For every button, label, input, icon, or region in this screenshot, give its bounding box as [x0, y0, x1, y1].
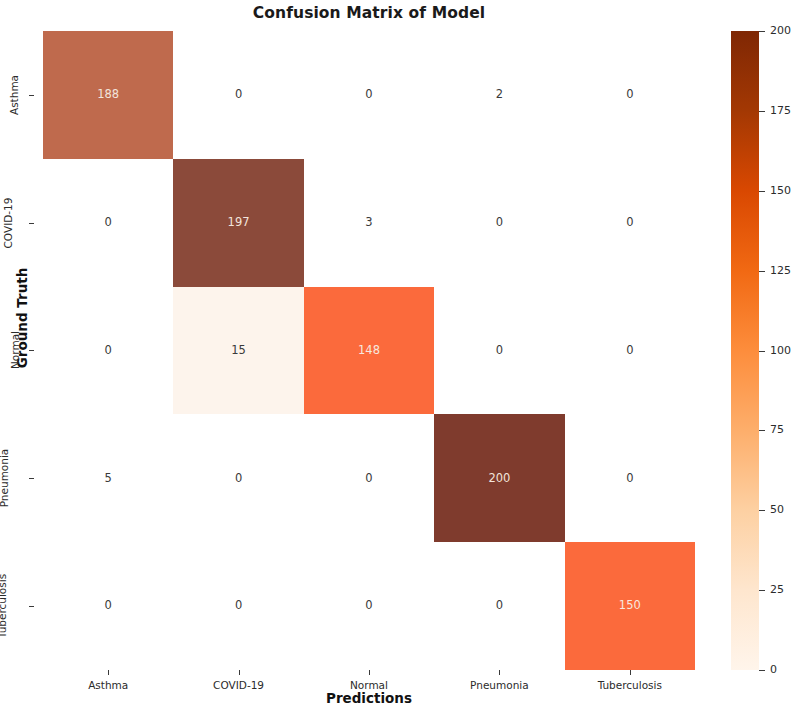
heatmap-cell-value: 0 [496, 217, 503, 229]
y-tick-label: Pneumonia [0, 449, 11, 508]
colorbar-tick-mark [759, 191, 765, 192]
heatmap-cell: 0 [565, 414, 695, 542]
y-tick-label: Normal [9, 331, 21, 369]
colorbar-tick-mark [759, 510, 765, 511]
heatmap-cell-value: 200 [488, 473, 510, 485]
colorbar-tick-mark [759, 271, 765, 272]
heatmap-cell-value: 0 [365, 89, 372, 101]
page-title: Confusion Matrix of Model [43, 4, 695, 22]
x-tick-mark [630, 670, 631, 675]
heatmap-cell: 150 [565, 542, 695, 670]
y-tick-normal: Normal [0, 287, 34, 415]
heatmap-cell-value: 0 [235, 600, 242, 612]
y-tick-mark [29, 606, 34, 607]
heatmap-cell: 148 [304, 287, 434, 415]
heatmap-cell-value: 197 [228, 217, 250, 229]
heatmap-cell-value: 0 [235, 473, 242, 485]
colorbar-tick-mark [759, 670, 765, 671]
heatmap-cell-value: 0 [235, 89, 242, 101]
heatmap-cell: 0 [304, 31, 434, 159]
heatmap-cell-value: 0 [365, 600, 372, 612]
heatmap-cell: 0 [43, 287, 173, 415]
heatmap-cell: 2 [434, 31, 564, 159]
y-tick-pneumonia: Pneumonia [0, 414, 34, 542]
heatmap-cell: 5 [43, 414, 173, 542]
y-tick-label: Asthma [8, 75, 20, 115]
heatmap-cell: 0 [43, 542, 173, 670]
y-axis-ticklabels: AsthmaCOVID-19NormalPneumoniaTuberculosi… [0, 31, 43, 670]
colorbar-tick-label: 25 [770, 583, 784, 596]
colorbar-tick-label: 150 [770, 184, 791, 197]
heatmap-cell-value: 188 [97, 89, 119, 101]
colorbar-tick-mark [759, 31, 765, 32]
heatmap-cell: 197 [173, 159, 303, 287]
colorbar-tick-label: 50 [770, 503, 784, 516]
heatmap-cell-value: 0 [105, 345, 112, 357]
heatmap-cell-value: 0 [105, 600, 112, 612]
x-tick-tuberculosis: Tuberculosis [565, 670, 695, 691]
heatmap-cell: 15 [173, 287, 303, 415]
y-tick-mark [29, 478, 34, 479]
heatmap-cell-value: 2 [496, 89, 503, 101]
x-tick-pneumonia: Pneumonia [434, 670, 564, 691]
y-tick-tuberculosis: Tuberculosis [0, 542, 34, 670]
heatmap-cell: 0 [565, 31, 695, 159]
colorbar-tick-label: 75 [770, 423, 784, 436]
heatmap-cell: 0 [434, 159, 564, 287]
x-tick-mark [108, 670, 109, 675]
x-tick-mark [369, 670, 370, 675]
heatmap-grid: 188002001973000151480050020000000150 [43, 31, 695, 670]
colorbar-tick-label: 100 [770, 344, 791, 357]
colorbar-tick-label: 0 [770, 663, 777, 676]
confusion-matrix-figure: Confusion Matrix of Model Ground Truth A… [0, 0, 798, 713]
y-tick-mark [29, 350, 34, 351]
colorbar-tick-label: 175 [770, 104, 791, 117]
heatmap-cell: 0 [173, 31, 303, 159]
heatmap-cell: 3 [304, 159, 434, 287]
heatmap-cell: 0 [434, 542, 564, 670]
heatmap-cell: 0 [434, 287, 564, 415]
heatmap-cell-value: 0 [496, 600, 503, 612]
heatmap-cell-value: 0 [626, 89, 633, 101]
heatmap-cell-value: 0 [365, 473, 372, 485]
x-tick-mark [239, 670, 240, 675]
heatmap-cell-value: 0 [496, 345, 503, 357]
x-tick-normal: Normal [304, 670, 434, 691]
heatmap-cell-value: 0 [105, 217, 112, 229]
heatmap-cell: 0 [565, 287, 695, 415]
x-axis-label: Predictions [43, 690, 695, 706]
colorbar-tick-mark [759, 430, 765, 431]
heatmap-cell: 200 [434, 414, 564, 542]
heatmap-cell: 0 [565, 159, 695, 287]
heatmap-cell: 0 [173, 414, 303, 542]
heatmap-cell-value: 0 [626, 473, 633, 485]
colorbar-tick-mark [759, 351, 765, 352]
y-tick-label: Tuberculosis [0, 574, 8, 638]
y-tick-mark [29, 223, 34, 224]
heatmap-cell-value: 0 [626, 345, 633, 357]
colorbar-tick-label: 200 [770, 24, 791, 37]
heatmap-cell: 0 [304, 542, 434, 670]
heatmap-cell-value: 150 [619, 600, 641, 612]
colorbar-tick-mark [759, 590, 765, 591]
colorbar-gradient [731, 31, 759, 670]
x-tick-mark [499, 670, 500, 675]
heatmap-cell: 0 [304, 414, 434, 542]
y-tick-label: COVID-19 [3, 197, 15, 248]
heatmap-cell: 0 [43, 159, 173, 287]
y-tick-asthma: Asthma [0, 31, 34, 159]
heatmap-cell-value: 148 [358, 345, 380, 357]
heatmap-cell-value: 5 [105, 473, 112, 485]
heatmap-cell-value: 15 [231, 345, 246, 357]
colorbar-tick-label: 125 [770, 264, 791, 277]
heatmap-cell-value: 3 [365, 217, 372, 229]
y-tick-covid-19: COVID-19 [0, 159, 34, 287]
colorbar: 0255075100125150175200 [731, 31, 798, 670]
x-tick-asthma: Asthma [43, 670, 173, 691]
heatmap-cell: 188 [43, 31, 173, 159]
heatmap-cell-value: 0 [626, 217, 633, 229]
y-tick-mark [29, 95, 34, 96]
colorbar-tick-mark [759, 111, 765, 112]
heatmap-cell: 0 [173, 542, 303, 670]
x-tick-covid-19: COVID-19 [173, 670, 303, 691]
